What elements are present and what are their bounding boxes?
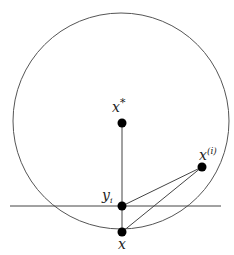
point-x-star [118, 119, 127, 128]
diagram: x* x(i) yi x [0, 0, 234, 255]
label-x-star: x* [112, 96, 126, 115]
point-y-i [118, 202, 127, 211]
point-x-i [198, 163, 207, 172]
label-x-i: x(i) [199, 146, 217, 163]
label-x: x [118, 236, 126, 252]
label-y-i: yi [101, 187, 113, 205]
segment-yi-xi [122, 167, 202, 206]
segment-x-xi [122, 167, 202, 232]
